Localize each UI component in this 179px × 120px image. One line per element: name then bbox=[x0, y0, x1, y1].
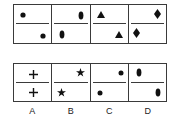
divider-line bbox=[93, 82, 126, 83]
divider-line bbox=[16, 82, 49, 83]
divider-line bbox=[93, 23, 126, 24]
option-a[interactable] bbox=[14, 64, 52, 101]
question-cell-4 bbox=[129, 5, 166, 43]
diamond-icon bbox=[154, 9, 162, 19]
options-strip bbox=[13, 63, 167, 102]
question-cell-1 bbox=[14, 5, 52, 43]
oval-icon bbox=[58, 29, 66, 39]
plus-icon bbox=[28, 87, 38, 97]
option-c[interactable] bbox=[91, 64, 129, 101]
option-label-b[interactable]: B bbox=[52, 104, 91, 118]
star-icon bbox=[57, 88, 66, 97]
option-b[interactable] bbox=[52, 64, 90, 101]
question-strip bbox=[13, 4, 167, 44]
oval-icon bbox=[135, 67, 143, 77]
divider-line bbox=[54, 23, 87, 24]
question-cell-2 bbox=[52, 5, 90, 43]
divider-line bbox=[54, 82, 87, 83]
dot-icon bbox=[117, 69, 125, 77]
option-label-d[interactable]: D bbox=[129, 104, 168, 118]
option-d[interactable] bbox=[129, 64, 166, 101]
star-icon bbox=[76, 68, 85, 77]
oval-icon bbox=[77, 10, 85, 20]
divider-line bbox=[131, 23, 164, 24]
dot-icon bbox=[96, 89, 104, 97]
triangle-icon bbox=[115, 30, 123, 38]
option-label-c[interactable]: C bbox=[90, 104, 129, 118]
dot-icon bbox=[19, 11, 27, 19]
diamond-icon bbox=[133, 28, 141, 38]
plus-icon bbox=[28, 69, 38, 79]
triangle-icon bbox=[97, 10, 105, 18]
divider-line bbox=[131, 82, 164, 83]
question-cell-3 bbox=[91, 5, 129, 43]
dot-icon bbox=[39, 32, 47, 40]
option-labels: A B C D bbox=[13, 104, 167, 118]
divider-line bbox=[16, 23, 49, 24]
oval-icon bbox=[154, 87, 162, 97]
option-label-a[interactable]: A bbox=[13, 104, 52, 118]
